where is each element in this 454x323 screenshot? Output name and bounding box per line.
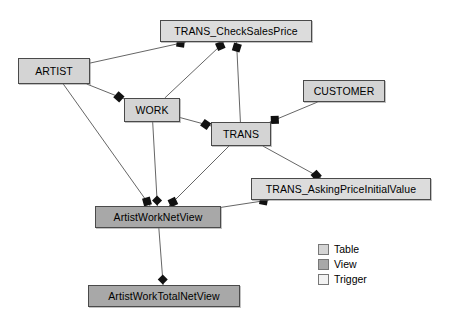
- edge-trans-to-artist_work_net: [168, 146, 229, 207]
- edge-marker-square-icon: [142, 197, 152, 207]
- edge-work-to-check_sales_price: [165, 41, 226, 98]
- legend-label: View: [334, 259, 357, 270]
- edge-marker-diamond-icon: [152, 196, 162, 206]
- node-artist[interactable]: ARTIST: [18, 58, 90, 84]
- legend-item-trigger: Trigger: [318, 273, 367, 286]
- node-label: ArtistWorkNetView: [114, 211, 203, 223]
- diagram-edges-layer: [0, 0, 454, 323]
- edge-artist-to-check_sales_price: [90, 39, 186, 63]
- legend-item-table: Table: [318, 243, 367, 256]
- node-label: ARTIST: [35, 65, 73, 77]
- legend-swatch-table-icon: [318, 244, 329, 255]
- diagram-canvas: ARTISTWORKTRANSCUSTOMERTRANS_CheckSalesP…: [0, 0, 454, 323]
- node-asking_price[interactable]: TRANS_AskingPriceInitialValue: [251, 178, 431, 200]
- node-label: TRANS_AskingPriceInitialValue: [266, 183, 416, 195]
- diagram-legend: TableViewTrigger: [318, 243, 367, 286]
- edge-marker-square-icon: [113, 91, 124, 102]
- edge-work-to-artist_work_net: [152, 122, 162, 206]
- node-artist_work_net[interactable]: ArtistWorkNetView: [95, 206, 221, 228]
- edge-artist-to-work: [87, 84, 125, 102]
- edge-customer-to-trans: [270, 102, 318, 124]
- node-label: WORK: [135, 104, 168, 116]
- node-label: TRANS: [223, 128, 259, 140]
- edge-marker-square-icon: [232, 42, 242, 52]
- node-work[interactable]: WORK: [124, 98, 180, 122]
- legend-label: Table: [334, 244, 359, 255]
- node-label: CUSTOMER: [314, 85, 375, 97]
- edge-artist_work_net-to-artist_work_total: [158, 228, 168, 285]
- node-check_sales_price[interactable]: TRANS_CheckSalesPrice: [160, 20, 312, 42]
- edge-work-to-trans: [180, 118, 211, 131]
- edge-marker-square-icon: [200, 119, 211, 130]
- legend-swatch-view-icon: [318, 259, 329, 270]
- edge-trans-to-check_sales_price: [232, 42, 242, 122]
- legend-swatch-trigger-icon: [318, 274, 329, 285]
- edge-trans-to-asking_price: [263, 146, 322, 181]
- node-customer[interactable]: CUSTOMER: [303, 80, 385, 102]
- edge-marker-square-icon: [271, 116, 279, 124]
- legend-item-view: View: [318, 258, 367, 271]
- node-artist_work_total[interactable]: ArtistWorkTotalNetView: [88, 285, 240, 307]
- node-label: ArtistWorkTotalNetView: [108, 290, 220, 302]
- node-trans[interactable]: TRANS: [211, 122, 271, 146]
- node-label: TRANS_CheckSalesPrice: [174, 25, 297, 37]
- edge-marker-diamond-icon: [158, 275, 168, 285]
- legend-label: Trigger: [334, 274, 367, 285]
